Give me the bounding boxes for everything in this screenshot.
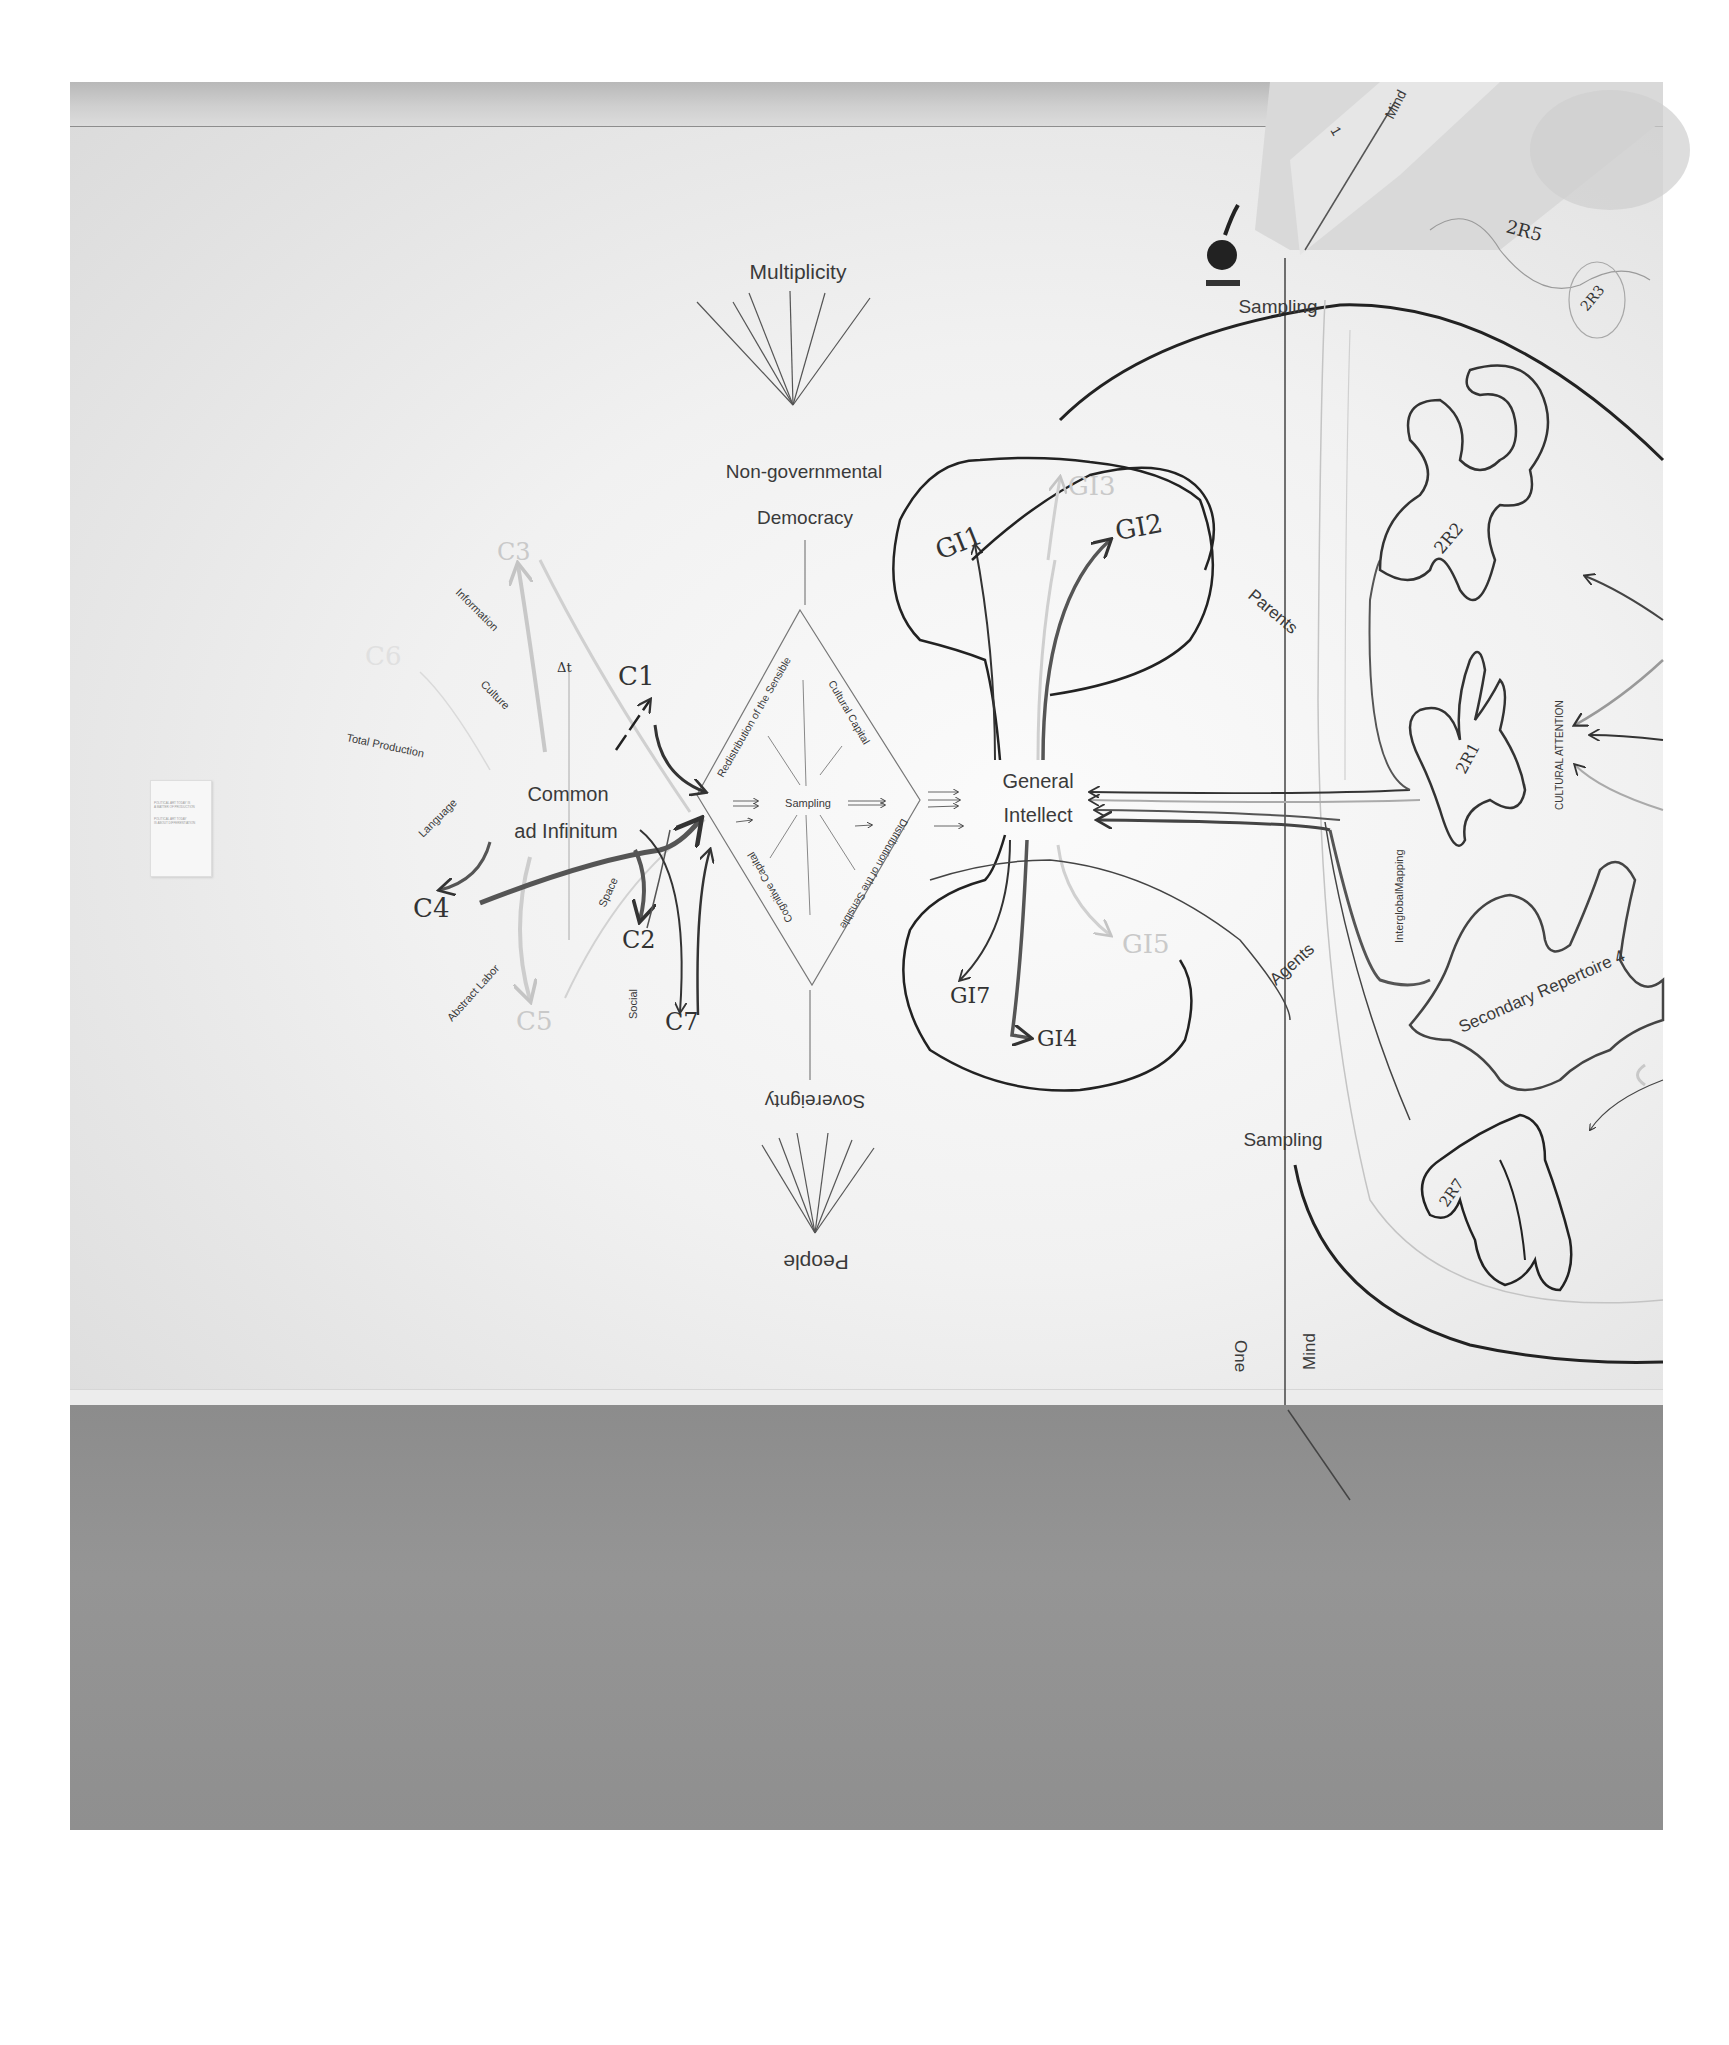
node-gi7: GI7 xyxy=(950,983,990,1008)
gi-title-line2: Intellect xyxy=(1004,804,1073,826)
node-c5: C5 xyxy=(516,1006,552,1036)
spoke-space: Space xyxy=(596,875,620,908)
secondary-repertoire-label: Secondary Repertoire 4 xyxy=(1456,946,1628,1036)
node-c7: C7 xyxy=(665,1008,699,1036)
axis-one-label: One xyxy=(1231,1340,1250,1372)
repertoire-2r7-label: 2R7 xyxy=(1436,1175,1468,1210)
node-gi3: GI3 xyxy=(1068,471,1116,501)
interglobal-mapping-label: InterglobalMapping xyxy=(1393,849,1405,943)
sampling-bottom-label: Sampling xyxy=(1243,1129,1322,1150)
node-gi5: GI5 xyxy=(1122,929,1170,959)
mind-cluster: Sampling Sampling Parents Agents Intergl… xyxy=(1060,296,1663,1372)
ceiling-panel: 1 Mind 2R5 2R3 xyxy=(1255,82,1690,338)
multiplicity-fan xyxy=(697,291,870,405)
people-fan xyxy=(762,1133,874,1233)
node-c4: C4 xyxy=(413,893,449,923)
common-cluster: Common ad Infinitum Δt C1 C2 C3 C4 C5 C6… xyxy=(346,538,710,1036)
general-intellect-cluster: General Intellect GI1 GI2 GI3 GI4 GI5 GI… xyxy=(893,458,1290,1091)
non-governmental-label: Non-governmental xyxy=(726,461,882,482)
wall-drawing: 1 Mind 2R5 2R3 Multiplicity Non-governme… xyxy=(0,0,1729,2045)
diamond-edge-distribution: Distribution of the Sensible xyxy=(838,817,911,931)
node-c6: C6 xyxy=(365,641,401,671)
wall-speaker-icon xyxy=(1206,205,1240,286)
node-c1: C1 xyxy=(618,661,654,691)
axis-mind-label: Mind xyxy=(1300,1333,1319,1370)
node-c2: C2 xyxy=(622,926,656,954)
node-gi2: GI2 xyxy=(1113,508,1165,546)
spoke-abstract-labor: Abstract Labor xyxy=(445,962,502,1023)
common-title-line2: ad Infinitum xyxy=(514,820,617,842)
diamond-center-sampling: Sampling xyxy=(785,797,831,809)
sampling-diamond: Sampling Redistribution of the Sensible … xyxy=(697,610,963,985)
node-gi4: GI4 xyxy=(1037,1026,1077,1051)
repertoire-2r1-label: 2R1 xyxy=(1452,739,1484,777)
multiplicity-label: Multiplicity xyxy=(750,260,847,283)
node-c3: C3 xyxy=(497,538,531,566)
cultural-attention-label: CULTURAL ATTENTION xyxy=(1554,700,1565,810)
common-title-line1: Common xyxy=(527,783,608,805)
spoke-total-production: Total Production xyxy=(346,731,426,759)
diamond-edge-cognitive-capital: Cognitive Capital xyxy=(745,850,795,925)
spoke-language: Language xyxy=(416,796,459,839)
spoke-information: Information xyxy=(454,586,501,633)
agents-label: Agents xyxy=(1266,939,1318,989)
delta-t-label: Δt xyxy=(557,660,572,675)
repertoire-2r2-label: 2R2 xyxy=(1430,518,1467,557)
gi-title-line1: General xyxy=(1002,770,1073,792)
sampling-top-label: Sampling xyxy=(1238,296,1317,317)
democracy-label: Democracy xyxy=(757,507,854,528)
floor-divider-line xyxy=(1288,1410,1350,1500)
spoke-culture: Culture xyxy=(479,678,513,712)
sovereignty-label: Sovereignty xyxy=(764,1091,865,1112)
repertoire-2r3-label: 2R3 xyxy=(1577,282,1607,314)
parents-label: Parents xyxy=(1244,586,1301,638)
people-label: People xyxy=(783,1251,848,1274)
spoke-social: Social xyxy=(627,989,639,1019)
diamond-edge-redistribution: Redistribution of the Sensible xyxy=(714,655,793,779)
